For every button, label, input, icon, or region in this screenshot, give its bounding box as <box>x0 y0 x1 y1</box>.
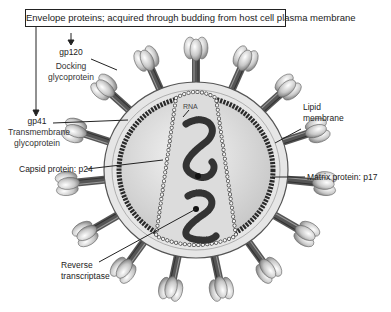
capsid-protein-text: Capsid protein: p24 <box>19 164 93 174</box>
capsid-protein-label: Capsid protein: p24 <box>19 164 93 175</box>
lipid-line1: Lipid <box>303 102 344 113</box>
gp41-desc-2: glycoprotein <box>8 138 66 149</box>
gp41-desc-1: Transmembrane <box>8 127 66 138</box>
gp120-desc-2: glycoprotein <box>48 72 94 83</box>
reverse-transcriptase-label: Reverse transcriptase <box>61 260 110 282</box>
lipid-line2: membrane <box>303 113 344 124</box>
rt-line1: Reverse <box>61 260 110 271</box>
rna-label: RNA <box>183 101 198 112</box>
matrix-protein-label: Matrix protein: p17 <box>307 172 377 183</box>
gp41-label: gp41 Transmembrane glycoprotein <box>8 116 66 149</box>
gp120-label: gp120 Docking glycoprotein <box>48 47 94 83</box>
rna-text: RNA <box>183 103 198 110</box>
gp120-desc-1: Docking <box>48 61 94 72</box>
lipid-membrane-label: Lipid membrane <box>303 102 344 124</box>
matrix-protein-text: Matrix protein: p17 <box>307 172 377 182</box>
gp41-name: gp41 <box>8 116 66 127</box>
rt-line2: transcriptase <box>61 271 110 282</box>
gp120-name: gp120 <box>48 47 94 58</box>
